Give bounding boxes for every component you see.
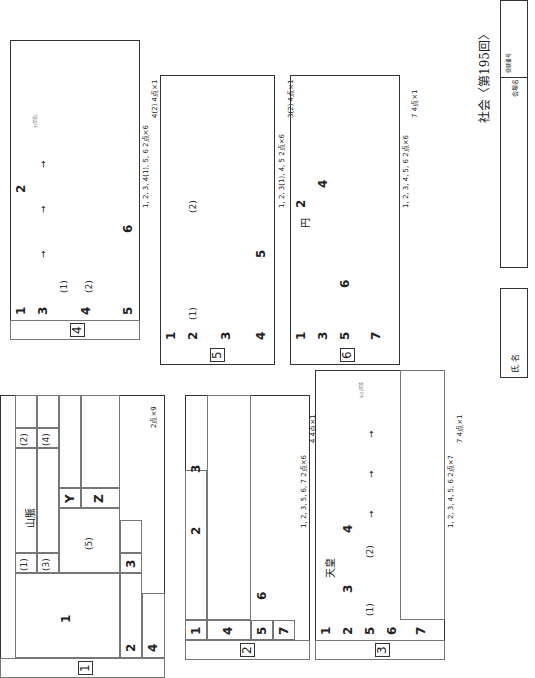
q4-2-label: (2) bbox=[85, 280, 94, 293]
q2-label: 2 bbox=[295, 200, 307, 208]
q1-label: 1 bbox=[190, 627, 202, 635]
section-1-number: 1 bbox=[78, 661, 93, 675]
q2-label: 2 bbox=[190, 527, 202, 535]
section-2-number: 2 bbox=[240, 643, 255, 657]
q7-label: 7 bbox=[415, 627, 427, 635]
section-4-points-a: 1, 2, 3, 4(1), 5, 6 2点×6 bbox=[142, 125, 151, 208]
arrow-icon: → bbox=[38, 205, 48, 213]
q1-label: 1 bbox=[15, 307, 27, 315]
z-label: Z bbox=[93, 494, 105, 503]
q3-label: 3 bbox=[125, 560, 137, 568]
exam-number-field[interactable]: 受験番号 bbox=[500, 0, 528, 78]
q1-4-answer[interactable] bbox=[37, 395, 59, 428]
q2-1-label: (1) bbox=[189, 307, 198, 320]
section-5-frame bbox=[160, 75, 275, 365]
q5-label: 5 bbox=[256, 627, 268, 635]
exam-title: 社会〈第195回〉 bbox=[475, 28, 492, 123]
q1-5-label: (5) bbox=[85, 537, 94, 550]
q1-answer[interactable] bbox=[185, 470, 207, 620]
q3-label: 3 bbox=[37, 307, 49, 315]
section-6-number: 6 bbox=[340, 348, 355, 362]
q5-label: 5 bbox=[339, 332, 351, 340]
y-label: Y bbox=[64, 494, 76, 503]
arrow-icon: → bbox=[366, 470, 376, 478]
q4-1-label: (1) bbox=[60, 280, 69, 293]
q1-label: 1 bbox=[320, 627, 332, 635]
q5-label: 5 bbox=[364, 627, 376, 635]
q2-label: 2 bbox=[125, 644, 137, 652]
q2-label: 2 bbox=[342, 627, 354, 635]
q3-label: 3 bbox=[220, 332, 232, 340]
q1-3-answer[interactable] bbox=[37, 448, 59, 553]
q4-label: 4 bbox=[317, 180, 329, 188]
section-2-points-a: 1, 2, 3, 5, 6, 7 2点×6 bbox=[300, 455, 309, 528]
arrow-icon: → bbox=[38, 250, 48, 258]
arrow-icon: → bbox=[38, 160, 48, 168]
yen-text: 円 bbox=[297, 218, 312, 228]
section-5-points-a: 1, 2, 3(1), 4, 5 2点×6 bbox=[278, 134, 287, 208]
section-4-frame bbox=[10, 40, 140, 340]
q6-label: 6 bbox=[339, 280, 351, 288]
q5-label: 5 bbox=[122, 307, 134, 315]
emperor-text: 天皇 bbox=[322, 558, 337, 578]
section-3-number: 3 bbox=[375, 643, 390, 657]
q6-label: 6 bbox=[256, 592, 268, 600]
q4-label: 4 bbox=[147, 644, 159, 652]
mountain-text: 山脈 bbox=[22, 508, 37, 528]
q7-label: 7 bbox=[278, 627, 290, 635]
exam-number-label: 受験番号 bbox=[504, 53, 511, 73]
q7-label: 7 bbox=[370, 332, 382, 340]
section-6-points-b: 7 4点×1 bbox=[411, 90, 420, 118]
q4-label: 4 bbox=[80, 307, 92, 315]
q4-label: 4 bbox=[342, 525, 354, 533]
q2-label: 2 bbox=[187, 332, 199, 340]
q2-label: 2 bbox=[15, 185, 27, 193]
q4-label: 4 bbox=[255, 332, 267, 340]
q1-3-label: (3) bbox=[42, 558, 51, 571]
answer-sheet: 1 1 (1) 山脈 (2) (3) (4) (5) Y Z 2 3 4 2点×… bbox=[0, 0, 535, 678]
section-3-points-a: 1, 2, 3, 4, 5, 6 2点×7 bbox=[447, 455, 456, 528]
z-answer[interactable] bbox=[81, 395, 120, 488]
q7-answer[interactable] bbox=[400, 370, 445, 620]
y-answer[interactable] bbox=[59, 395, 81, 488]
q1-4-label: (4) bbox=[42, 433, 51, 446]
q5-note: 5(2)完答 bbox=[358, 382, 364, 398]
arrow-icon: → bbox=[366, 430, 376, 438]
q5-1-label: (1) bbox=[366, 603, 375, 616]
q3-answer[interactable] bbox=[120, 520, 142, 553]
q1-2-label: (2) bbox=[20, 433, 29, 446]
q1-label: 1 bbox=[295, 332, 307, 340]
q1-2-answer[interactable] bbox=[15, 395, 37, 428]
q3-label: 3 bbox=[342, 585, 354, 593]
section-6-points-a: 1, 2, 3, 4, 5, 6 2点×6 bbox=[402, 135, 411, 208]
arrow-icon: → bbox=[366, 510, 376, 518]
q1-label: 1 bbox=[165, 332, 177, 340]
q4-answer[interactable] bbox=[207, 395, 251, 620]
q5-2-label: (2) bbox=[366, 545, 375, 558]
q6-label: 6 bbox=[386, 627, 398, 635]
q1-1-label: (1) bbox=[20, 558, 29, 571]
q5-label: 5 bbox=[255, 250, 267, 258]
q3-label: 3 bbox=[190, 465, 202, 473]
section-3-points-b: 7 4点×1 bbox=[456, 415, 465, 443]
q4-label: 4 bbox=[222, 627, 234, 635]
section-4-points-b: 4(2) 4点×1 bbox=[151, 80, 160, 118]
q3-label: 3 bbox=[317, 332, 329, 340]
section-1-points: 2点×9 bbox=[150, 406, 159, 428]
name-label: 氏 名 bbox=[509, 354, 520, 373]
section-4-number: 4 bbox=[70, 323, 85, 337]
q1-1-answer[interactable] bbox=[15, 448, 37, 553]
section-5-number: 5 bbox=[210, 348, 225, 362]
q2-2-label: (2) bbox=[189, 200, 198, 213]
q1-label: 1 bbox=[60, 615, 72, 623]
q3-note: 3(完答) bbox=[32, 114, 38, 128]
venue-label: 会場名 bbox=[510, 79, 519, 97]
name-field[interactable]: 氏 名 bbox=[500, 288, 528, 378]
q6-label: 6 bbox=[122, 225, 134, 233]
